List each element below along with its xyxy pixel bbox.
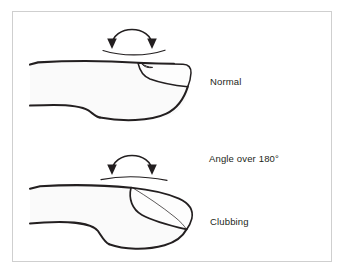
clubbed-finger-illustration	[30, 156, 194, 249]
normal-angle-arrow-icon	[103, 30, 165, 55]
clubbing-angle-arrow-icon	[101, 156, 167, 181]
clubbing-label: Clubbing	[210, 216, 249, 227]
normal-finger-illustration	[30, 30, 191, 121]
figure-root: Normal Angle over 180° Clubbing	[0, 0, 346, 276]
finger-clubbing-diagram	[0, 0, 346, 276]
angle-over-180-label: Angle over 180°	[209, 153, 279, 164]
normal-label: Normal	[210, 76, 242, 87]
